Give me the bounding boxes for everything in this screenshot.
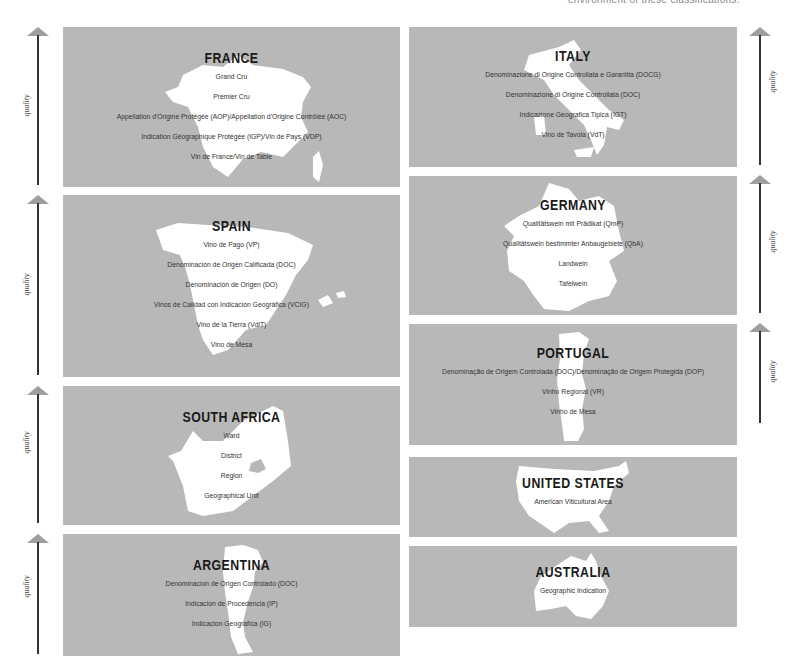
tier-label: Premier Cru xyxy=(76,87,386,107)
tier-label: Vino de la Tierra (VdlT) xyxy=(76,315,386,335)
tier-label: Landwein xyxy=(422,254,724,274)
tier-label: Denominação de Origem Controlada (DOC)/D… xyxy=(422,362,724,382)
panel-italy: ITALY Denominazione di Origine Controlla… xyxy=(409,27,737,167)
quality-label: quality xyxy=(768,230,777,252)
country-title-united-states: UNITED STATES xyxy=(429,474,718,492)
quality-arrow-italy: quality xyxy=(745,27,775,167)
country-title-spain: SPAIN xyxy=(83,217,380,235)
tier-label: Geographical Unit xyxy=(76,486,386,506)
tier-label: Vinos de Calidad con Indicación Geográfi… xyxy=(76,295,386,315)
quality-label: quality xyxy=(768,360,777,382)
quality-label: quality xyxy=(22,575,31,597)
tier-label: Vino de Pago (VP) xyxy=(76,235,386,255)
quality-label: quality xyxy=(22,94,31,116)
tier-label: Appellation d'Origine Protégée (AOP)/App… xyxy=(76,107,386,127)
tier-label: Grand Cru xyxy=(76,67,386,87)
panel-france: FRANCE Grand Cru Premier Cru Appellation… xyxy=(63,27,400,187)
tier-label: Indicacion Geografica (IG) xyxy=(76,614,386,634)
tier-label: Denominazione di Origine Controllata e G… xyxy=(422,65,724,85)
country-title-italy: ITALY xyxy=(429,47,718,65)
country-title-portugal: PORTUGAL xyxy=(429,344,718,362)
quality-label: quality xyxy=(22,431,31,453)
tier-label: Vino de Tavola (VdT) xyxy=(422,125,724,145)
quality-arrow-argentina: quality xyxy=(23,534,53,656)
tier-label: Qualitätswein bestimmter Anbaugebiete (Q… xyxy=(422,234,724,254)
tier-label: Denominazione di Origine Controllata (DO… xyxy=(422,85,724,105)
tier-label: Qualitätswein mit Prädikat (QmP) xyxy=(422,214,724,234)
tier-label: Vinho Regional (VR) xyxy=(422,382,724,402)
panel-south-africa: SOUTH AFRICA Ward District Region Geogra… xyxy=(63,386,400,525)
panel-spain: SPAIN Vino de Pago (VP) Denominación de … xyxy=(63,195,400,377)
tier-label: Indication Géographique Protégée (IGP)/V… xyxy=(76,127,386,147)
tier-label: Denominacion de Origen Controlado (DOC) xyxy=(76,574,386,594)
panel-united-states: UNITED STATES American Viticultural Area xyxy=(409,457,737,537)
tier-label: Geographic Indication xyxy=(422,581,724,601)
country-title-germany: GERMANY xyxy=(429,196,718,214)
quality-label: quality xyxy=(768,70,777,92)
tier-label: Ward xyxy=(76,426,386,446)
caption-text: environment of these classifications. xyxy=(568,0,740,5)
panel-germany: GERMANY Qualitätswein mit Prädikat (QmP)… xyxy=(409,176,737,315)
tier-label: Denominación de Origen Calificada (DOC) xyxy=(76,255,386,275)
tier-label: Vin de France/Vin de Table xyxy=(76,147,386,167)
tier-label: Vinho de Mesa xyxy=(422,402,724,422)
tier-label: Tafelwein xyxy=(422,274,724,294)
country-title-france: FRANCE xyxy=(83,49,380,67)
quality-arrow-portugal: quality xyxy=(745,323,775,423)
tier-label: Denominación de Origen (DO) xyxy=(76,275,386,295)
panel-australia: AUSTRALIA Geographic Indication xyxy=(409,546,737,627)
quality-arrow-france: quality xyxy=(23,27,53,187)
tier-label: District xyxy=(76,446,386,466)
country-title-argentina: ARGENTINA xyxy=(83,556,380,574)
quality-arrow-south-africa: quality xyxy=(23,386,53,525)
quality-label: quality xyxy=(22,273,31,295)
quality-arrow-spain: quality xyxy=(23,195,53,377)
panel-argentina: ARGENTINA Denominacion de Origen Control… xyxy=(63,534,400,656)
tier-label: Indicazione Geografica Tipica (IGT) xyxy=(422,105,724,125)
panel-portugal: PORTUGAL Denominação de Origem Controlad… xyxy=(409,324,737,445)
country-title-australia: AUSTRALIA xyxy=(429,563,718,581)
tier-label: Indicacion de Procedencia (IP) xyxy=(76,594,386,614)
tier-label: Vino de Mesa xyxy=(76,335,386,355)
quality-arrow-germany: quality xyxy=(745,175,775,315)
tier-label: Region xyxy=(76,466,386,486)
tier-label: American Viticultural Area xyxy=(422,492,724,512)
country-title-south-africa: SOUTH AFRICA xyxy=(83,408,380,426)
